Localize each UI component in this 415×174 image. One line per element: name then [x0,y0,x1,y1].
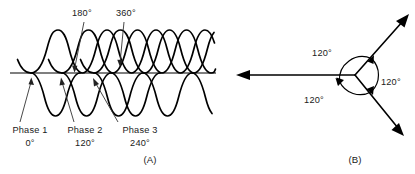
phasor-arrow-upper-right-head [396,14,409,28]
panel-a-caption: (A) [144,154,157,165]
panel-b-phasor-diagram: 120° 120° 120° (B) [236,14,409,165]
angle-arc-right [367,59,379,96]
label-phase-3-name: Phase 3 [122,125,157,135]
leader-phase-3-arrowhead [93,78,99,87]
label-phasor-angle-upper: 120° [312,48,332,58]
leader-phase-1-arrowhead [29,78,35,86]
angle-arc-lower-left [337,78,372,95]
label-phase-3-angle: 240° [130,138,150,148]
three-phase-figure: 180° 360° Phase 1 0° Phase 2 120° Phase … [0,0,415,174]
label-phase-1-angle: 0° [25,138,34,148]
label-phase-1-name: Phase 1 [12,125,47,135]
label-phase-2-name: Phase 2 [67,125,102,135]
waveform-phase-1 [18,30,215,73]
label-phasor-angle-lower: 120° [304,95,324,105]
phasor-arrow-upper-right [355,14,409,75]
leader-phase-2-arrowhead [60,78,66,86]
label-180-degrees: 180° [72,8,92,18]
label-phase-2-angle: 120° [75,138,95,148]
label-360-degrees: 360° [116,8,136,18]
phasor-arrow-lower-right-head [392,123,405,136]
label-phasor-angle-right: 120° [381,77,401,87]
figure-canvas: 180° 360° Phase 1 0° Phase 2 120° Phase … [0,0,415,174]
panel-b-caption: (B) [349,154,362,165]
phasor-arrow-left-head [236,70,250,80]
leader-phase-1 [20,78,34,123]
panel-a-waveforms: 180° 360° Phase 1 0° Phase 2 120° Phase … [10,8,216,165]
waveform-phase-1-neg [31,73,80,116]
